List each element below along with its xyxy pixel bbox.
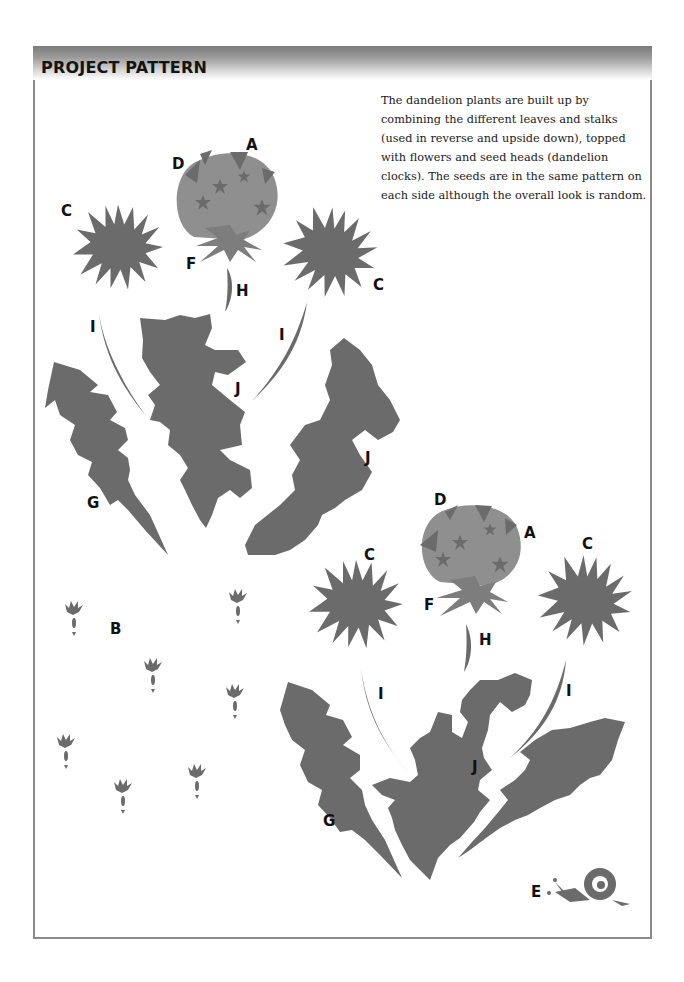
stalk-h (225, 268, 232, 312)
label-c: C (582, 535, 593, 553)
label-g: G (87, 494, 99, 512)
label-f: F (186, 255, 196, 273)
plant-2 (280, 505, 642, 906)
label-a: A (246, 136, 258, 154)
leaf-j-right (245, 338, 400, 555)
label-d: D (172, 155, 184, 173)
seeds-b (57, 589, 247, 814)
label-a: A (524, 524, 536, 542)
label-j: J (472, 758, 478, 776)
snail-e (547, 868, 630, 906)
stalk-i-right (253, 302, 307, 400)
label-d: D (434, 491, 446, 509)
label-h: H (236, 282, 249, 300)
label-c: C (61, 202, 72, 220)
pattern-illustration (0, 0, 684, 982)
label-i: I (279, 326, 285, 344)
leaf-g (45, 362, 168, 555)
label-e: E (531, 883, 541, 901)
label-b: B (110, 620, 121, 638)
leaf-j-center (140, 314, 252, 528)
label-g: G (323, 812, 335, 830)
label-i: I (378, 685, 384, 703)
label-j: J (365, 449, 371, 467)
label-h: H (479, 631, 492, 649)
label-j: J (235, 380, 241, 398)
flower-c-left (73, 205, 163, 290)
label-i: I (566, 682, 572, 700)
label-i: I (90, 318, 96, 336)
label-c: C (364, 546, 375, 564)
flower-c-right (271, 194, 389, 309)
label-f: F (424, 596, 434, 614)
label-c: C (373, 276, 384, 294)
